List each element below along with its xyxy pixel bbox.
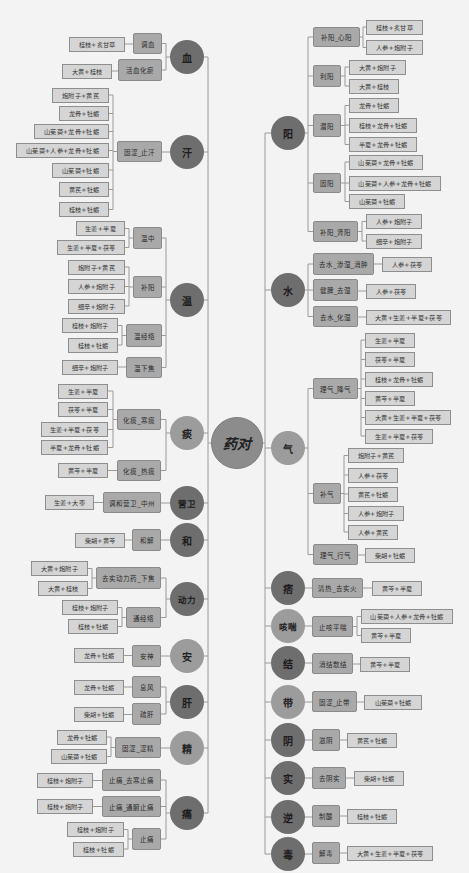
category-node-yin: 阴 [271,723,305,757]
herb-pair-node: 生姜+大枣 [45,495,94,510]
herb-pair-node: 茯苓+半夏 [58,402,108,417]
herb-pair-node: 山茱萸+牡蛎 [349,194,405,209]
herb-pair-node: 人参+茯苓 [366,284,416,299]
herb-pair-node: 龙骨+牡蛎 [74,680,124,695]
category-node-ni: 逆 [271,800,305,834]
function-node: 止痛 [132,828,161,850]
herb-pair-node: 生姜+半夏+茯苓 [41,422,108,437]
herb-pair-node: 人参+黄芪 [348,525,398,540]
function-node: 补阳_心阳 [313,27,360,47]
herb-pair-node: 山茱萸+人参+龙骨+牡蛎 [16,143,109,158]
category-node-jie: 结 [271,646,305,680]
function-node: 固涩_涩精 [115,737,161,758]
herb-pair-node: 桂枝+龙骨+牡蛎 [365,372,433,387]
herb-pair-node: 黄芩+半夏 [361,628,411,643]
herb-pair-node: 细辛+炮附子 [62,360,118,375]
herb-pair-node: 桂枝+炙甘草 [366,20,423,35]
herb-pair-node: 龙骨+牡蛎 [59,106,109,121]
herb-pair-node: 桂枝+炮附子 [67,822,124,837]
herb-pair-node: 龙骨+牡蛎 [74,648,124,663]
category-node-du: 毒 [271,837,305,871]
herb-pair-node: 桂枝+炮附子 [37,773,93,788]
herb-pair-node: 炮附子+黄芪 [68,260,125,275]
herb-pair-node: 半夏+龙骨+牡蛎 [41,440,108,455]
function-node: 安神 [132,645,161,667]
herb-pair-node: 山茱萸+人参+龙骨+牡蛎 [349,176,441,191]
category-node-dongli: 动力 [170,582,204,616]
herb-pair-node: 桂枝+炙甘草 [69,37,125,52]
function-node: 滋阴 [312,729,340,751]
category-node-pi: 痞 [271,571,305,605]
herb-pair-node: 黄芪+牡蛎 [347,733,397,748]
herb-pair-node: 柴胡+黄芩 [75,533,125,548]
herb-pair-node: 大黄+炮附子 [31,561,88,576]
function-node: 和解 [132,529,161,551]
function-node: 固涩_止汗 [117,141,162,162]
herb-pair-node: 人参+茯苓 [348,468,398,483]
function-node: 理气_降气 [313,378,358,399]
herb-pair-node: 桂枝+炮附子 [62,318,118,333]
function-node: 补阳 [133,276,162,298]
function-node: 调和营卫_中州 [103,492,161,513]
function-node: 潜阳 [313,114,341,137]
category-node-qi: 气 [271,431,305,465]
category-node-dai: 带 [271,685,305,719]
herb-pair-node: 桂枝+牡蛎 [68,619,118,634]
herb-pair-node: 人参+炮附子 [348,506,404,521]
function-node: 去水_化湿 [313,306,358,327]
herb-pair-node: 炮附子+黄芪 [52,88,109,103]
herb-pair-node: 大黄+生姜+半夏+茯苓 [366,310,451,325]
function-node: 解毒 [312,842,340,864]
function-node: 固涩_止带 [312,691,357,712]
category-node-tong: 痛 [170,796,204,830]
function-node: 制酸 [312,805,340,827]
function-node: 温经络 [126,324,162,347]
herb-pair-node: 黄芩+半夏 [360,657,410,672]
herb-pair-node: 山茱萸+龙骨+牡蛎 [349,155,423,170]
category-node-shui: 水 [271,273,305,307]
herb-pair-node: 茯苓+半夏 [365,352,415,367]
herb-pair-node: 柴胡+牡蛎 [354,771,404,786]
category-node-he: 和 [170,523,204,557]
function-node: 止痛_通腑止痛 [102,796,161,817]
function-node: 调血 [133,33,162,54]
function-node: 止咳平喘 [312,616,353,637]
herb-pair-node: 细辛+炮附子 [366,234,422,249]
function-node: 温中 [133,227,162,249]
category-node-shi: 实 [271,761,305,795]
herb-pair-node: 人参+炮附子 [366,40,423,55]
category-node-an: 安 [170,639,204,673]
herb-pair-node: 生姜+半夏+茯苓 [365,429,433,444]
function-node: 通经络 [126,607,161,628]
herb-pair-node: 黄芩+半夏 [372,581,422,596]
function-node: 健脾_去湿 [313,279,358,301]
herb-pair-node: 炮附子+黄芪 [348,448,404,463]
function-node: 固阳 [313,173,341,193]
herb-pair-node: 桂枝+龙骨+牡蛎 [349,118,417,133]
herb-pair-node: 半夏+龙骨+牡蛎 [349,137,417,152]
herb-pair-node: 桂枝+牡蛎 [59,202,109,217]
category-node-xue: 血 [170,40,204,74]
function-node: 化痰_热痰 [117,460,161,481]
function-node: 化痰_寒痰 [117,409,161,430]
herb-pair-node: 黄芩+半夏 [365,391,415,406]
function-node: 去实动力药_下焦 [96,567,161,589]
herb-pair-node: 黄芪+牡蛎 [59,182,109,197]
function-node: 补阳_肾阳 [313,221,358,242]
category-node-tan: 痰 [170,416,204,450]
herb-pair-node: 柴胡+牡蛎 [74,707,124,722]
herb-pair-node: 龙骨+牡蛎 [349,98,399,113]
function-node: 理气_行气 [313,544,358,565]
herb-pair-node: 山茱萸+龙骨+牡蛎 [34,124,109,139]
herb-pair-node: 山茱萸+牡蛎 [51,749,107,764]
function-node: 息风 [132,676,161,698]
herb-pair-node: 细辛+炮附子 [68,299,125,314]
herb-pair-node: 黄芩+半夏 [58,463,108,478]
center-node: 药对 [211,417,263,469]
category-node-wen: 温 [170,283,204,317]
category-node-jing: 精 [170,731,204,765]
category-node-kechuan: 咳喘 [271,609,305,643]
herb-pair-node: 大黄+生姜+半夏+茯苓 [365,410,451,425]
function-node: 去水_渗湿_消肿 [313,253,374,275]
herb-pair-node: 山茱萸+牡蛎 [52,163,109,178]
